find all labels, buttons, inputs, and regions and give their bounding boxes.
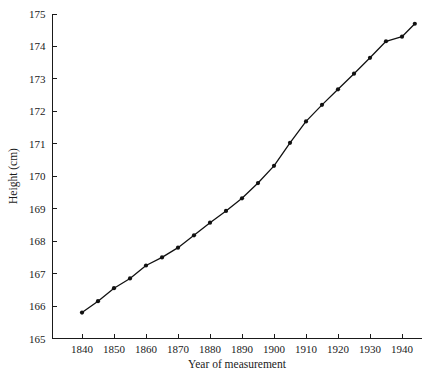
y-tick-label-167: 167 xyxy=(29,268,46,280)
y-axis-tick-labels: 165166167168169170171172173174175 xyxy=(29,8,46,345)
data-point-1935 xyxy=(384,39,388,43)
y-tick-label-165: 165 xyxy=(29,333,46,345)
x-tick-label-1880: 1880 xyxy=(199,343,222,355)
data-point-1940 xyxy=(400,35,404,39)
data-point-1870 xyxy=(176,246,180,250)
data-point-1840 xyxy=(80,310,84,314)
y-tick-label-175: 175 xyxy=(29,8,46,20)
height-series-markers xyxy=(80,22,417,315)
y-axis: 165166167168169170171172173174175 xyxy=(29,8,57,345)
data-point-1930 xyxy=(368,56,372,60)
y-tick-label-173: 173 xyxy=(29,73,46,85)
x-axis-tick-labels: 1840185018601870188018901900191019201930… xyxy=(71,343,414,355)
x-tick-label-1870: 1870 xyxy=(167,343,190,355)
y-tick-label-168: 168 xyxy=(29,235,46,247)
data-point-1895 xyxy=(256,181,260,185)
data-point-1900 xyxy=(272,164,276,168)
x-axis-title: Year of measurement xyxy=(188,358,287,370)
y-tick-label-170: 170 xyxy=(29,170,46,182)
y-axis-ticks xyxy=(53,14,57,339)
data-point-1865 xyxy=(160,255,164,259)
y-tick-label-169: 169 xyxy=(29,203,46,215)
x-tick-label-1890: 1890 xyxy=(231,343,254,355)
x-tick-label-1910: 1910 xyxy=(295,343,318,355)
data-point-1860 xyxy=(144,263,148,267)
data-point-1920 xyxy=(336,87,340,91)
y-axis-title: Height (cm) xyxy=(7,148,20,204)
height-series-line xyxy=(82,24,415,313)
x-tick-label-1850: 1850 xyxy=(103,343,126,355)
x-tick-label-1860: 1860 xyxy=(135,343,158,355)
height-vs-year-line-chart: 165166167168169170171172173174175 184018… xyxy=(0,0,429,380)
data-point-1890 xyxy=(240,196,244,200)
x-tick-label-1940: 1940 xyxy=(391,343,414,355)
data-point-1944 xyxy=(413,22,417,26)
data-point-1925 xyxy=(352,72,356,76)
x-tick-label-1930: 1930 xyxy=(359,343,382,355)
y-tick-label-171: 171 xyxy=(29,138,46,150)
data-point-1885 xyxy=(224,209,228,213)
data-point-1910 xyxy=(304,119,308,123)
x-axis: 1840185018601870188018901900191019201930… xyxy=(52,334,422,355)
x-tick-label-1840: 1840 xyxy=(71,343,94,355)
data-point-1880 xyxy=(208,221,212,225)
x-tick-label-1900: 1900 xyxy=(263,343,286,355)
chart-figure: 165166167168169170171172173174175 184018… xyxy=(0,0,429,380)
data-point-1915 xyxy=(320,103,324,107)
data-point-1845 xyxy=(96,299,100,303)
data-point-1850 xyxy=(112,286,116,290)
y-tick-label-166: 166 xyxy=(29,300,46,312)
x-axis-ticks xyxy=(82,334,402,339)
y-tick-label-174: 174 xyxy=(29,40,46,52)
data-point-1875 xyxy=(192,233,196,237)
y-tick-label-172: 172 xyxy=(29,105,46,117)
x-tick-label-1920: 1920 xyxy=(327,343,350,355)
data-point-1855 xyxy=(128,276,132,280)
plot-area xyxy=(80,22,417,315)
data-point-1905 xyxy=(288,141,292,145)
